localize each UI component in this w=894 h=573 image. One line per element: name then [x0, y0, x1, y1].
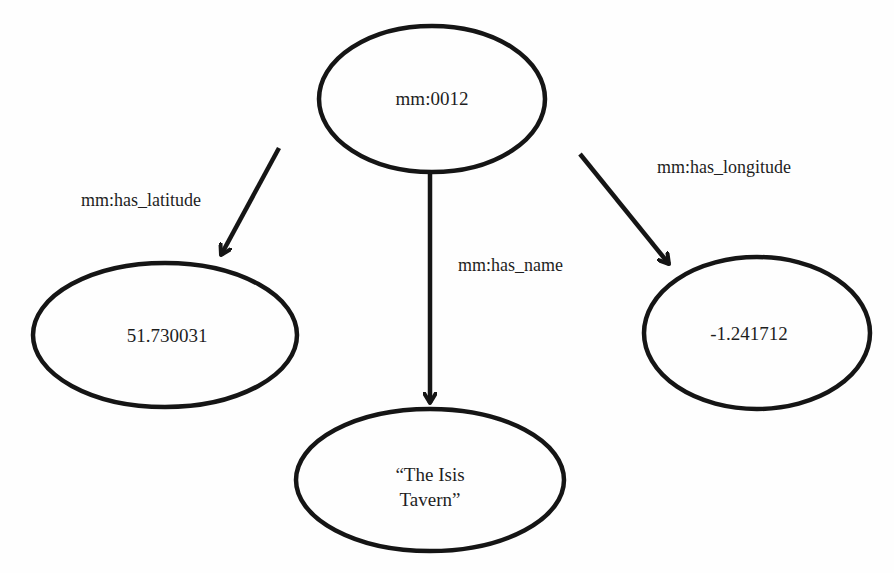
node-longitude: -1.241712 — [644, 257, 870, 409]
edge-has-name: mm:has_name — [430, 172, 563, 403]
node-latitude: 51.730031 — [33, 263, 297, 407]
node-longitude-label: -1.241712 — [710, 323, 788, 344]
node-name-label-line-1: “The Isis — [395, 464, 464, 485]
node-latitude-label: 51.730031 — [127, 325, 208, 346]
edge-label-has-latitude: mm:has_latitude — [81, 190, 201, 210]
rdf-diagram: mm:has_latitude mm:has_name mm:has_longi… — [0, 0, 894, 573]
node-name-label-line-2: Tavern” — [400, 489, 461, 510]
edge-has-latitude: mm:has_latitude — [81, 148, 279, 255]
node-name: “The Isis Tavern” — [296, 409, 564, 551]
edge-has-longitude: mm:has_longitude — [580, 154, 791, 264]
node-subject-label: mm:0012 — [396, 88, 469, 109]
edge-label-has-name: mm:has_name — [458, 255, 563, 275]
edge-label-has-longitude: mm:has_longitude — [657, 157, 791, 177]
diagram-svg: mm:has_latitude mm:has_name mm:has_longi… — [0, 0, 894, 573]
node-subject: mm:0012 — [319, 26, 545, 172]
